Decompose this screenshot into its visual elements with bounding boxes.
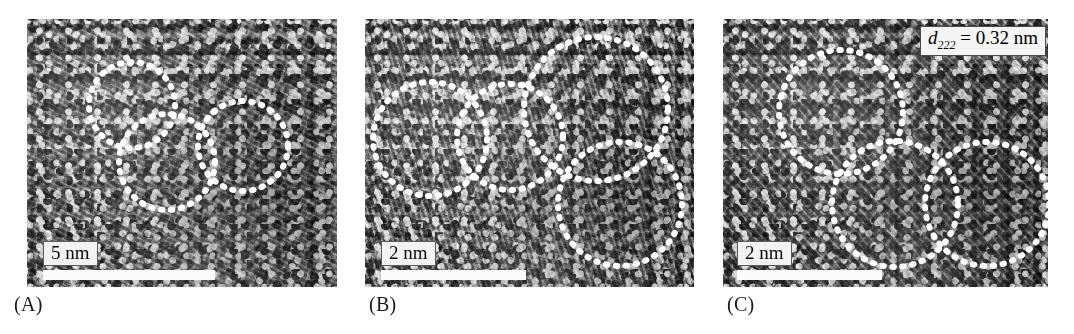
particle-outline xyxy=(89,62,175,148)
scale-bar-label: 2 nm xyxy=(381,241,436,266)
scale-bar-c: 2 nm xyxy=(737,241,882,280)
panel-caption-b: (B) xyxy=(369,293,397,316)
scale-bar-line xyxy=(737,270,882,280)
panel-a-micrograph: 5 nm xyxy=(27,19,337,287)
particle-outline xyxy=(524,37,668,181)
particle-outline xyxy=(925,142,1048,266)
particle-outline xyxy=(198,101,288,191)
lattice-unit: nm xyxy=(1014,27,1038,48)
lattice-subscript: 222 xyxy=(938,38,956,52)
lattice-symbol: d xyxy=(928,27,938,48)
panel-b-micrograph: 2 nm xyxy=(365,19,694,287)
particle-outline xyxy=(779,50,903,174)
scale-bar-line xyxy=(381,270,526,280)
lattice-spacing-annotation: d222 = 0.32 nm xyxy=(920,26,1046,56)
particle-outline xyxy=(373,82,487,196)
panel-c-micrograph: d222 = 0.32 nm 2 nm xyxy=(723,19,1048,287)
panel-caption-a: (A) xyxy=(14,293,43,316)
lattice-value: 0.32 xyxy=(976,27,1009,48)
scale-bar-label: 2 nm xyxy=(737,241,792,266)
scale-bar-label: 5 nm xyxy=(43,241,98,266)
lattice-equals: = xyxy=(960,27,971,48)
scale-bar-line xyxy=(43,270,215,280)
figure-container: 5 nm (A) 2 nm (B) xyxy=(0,0,1074,334)
scale-bar-b: 2 nm xyxy=(381,241,526,280)
particle-outline xyxy=(558,142,682,266)
panel-caption-c: (C) xyxy=(727,293,755,316)
scale-bar-a: 5 nm xyxy=(43,241,215,280)
